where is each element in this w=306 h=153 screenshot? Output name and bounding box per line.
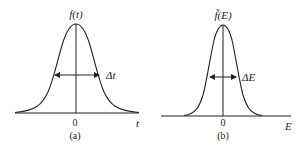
diagram-canvas: f(t) Δt 0 t (a) f̃(E) ΔE 0 E (b)	[0, 0, 306, 153]
caption-a: (a)	[69, 130, 80, 142]
axis-label-t: t	[136, 117, 140, 129]
axis-label-e: E	[284, 120, 292, 132]
function-label-b: f̃(E)	[214, 9, 231, 22]
origin-label-b: 0	[221, 117, 226, 128]
panel-a: f(t) Δt 0 t (a)	[15, 8, 140, 142]
function-label-a: f(t)	[69, 8, 83, 21]
width-label-a: Δt	[105, 69, 116, 81]
caption-b: (b)	[217, 130, 229, 142]
panel-b: f̃(E) ΔE 0 E (b)	[161, 9, 292, 142]
gaussian-curve-a	[15, 24, 139, 113]
width-label-b: ΔE	[241, 71, 255, 83]
origin-label-a: 0	[73, 117, 78, 128]
